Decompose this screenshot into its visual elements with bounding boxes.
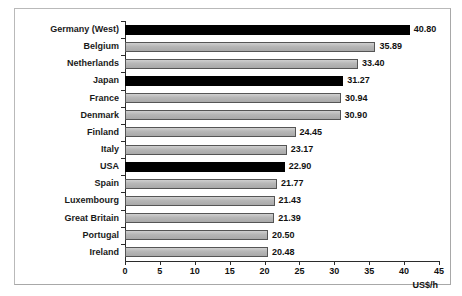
category-label: Italy [0,141,119,158]
x-axis-tick [404,261,405,265]
bar [125,145,287,155]
y-axis-tick [121,158,125,159]
category-label: Great Britain [0,210,119,227]
bar [125,59,358,69]
x-axis-tick-label: 5 [157,266,162,276]
category-label: Denmark [0,107,119,124]
bar [125,127,296,137]
x-axis-tick [369,261,370,265]
x-axis-tick-label: 10 [190,266,200,276]
x-axis-tick-label: 15 [225,266,235,276]
bar-row: Belgium35.89 [15,38,450,55]
bar-row: Great Britain21.39 [15,210,450,227]
bar [125,42,375,52]
x-axis-tick [265,261,266,265]
bar-value-label: 31.27 [343,72,370,89]
bar [125,230,268,240]
bar-value-label: 21.43 [275,192,302,209]
bar-row: Portugal20.50 [15,227,450,244]
category-label: France [0,90,119,107]
x-axis-tick [230,261,231,265]
bar [125,25,410,35]
x-axis-tick [334,261,335,265]
x-axis-tick-label: 25 [294,266,304,276]
y-axis-tick [121,107,125,108]
bar [125,213,274,223]
y-axis-tick [121,72,125,73]
x-axis-tick-label: 0 [122,266,127,276]
bar-row: Ireland20.48 [15,244,450,261]
bar-row: Italy23.17 [15,141,450,158]
category-label: Netherlands [0,55,119,72]
y-axis-tick [121,21,125,22]
bar [125,76,343,86]
x-axis-tick-label: 40 [399,266,409,276]
y-axis-tick [121,175,125,176]
bar-value-label: 30.94 [341,90,368,107]
x-axis-line [125,261,440,262]
bar-value-label: 21.39 [274,210,301,227]
y-axis-tick [121,210,125,211]
bar-value-label: 20.50 [268,227,295,244]
y-axis-tick [121,244,125,245]
bar-row: Luxembourg21.43 [15,192,450,209]
bar-row: Japan31.27 [15,72,450,89]
bar [125,93,341,103]
bar-value-label: 33.40 [358,55,385,72]
x-axis-tick-label: 30 [329,266,339,276]
y-axis-tick [121,55,125,56]
y-axis-tick [121,192,125,193]
x-axis-tick [195,261,196,265]
bar-row: USA22.90 [15,158,450,175]
bar-row: France30.94 [15,90,450,107]
category-label: Ireland [0,244,119,261]
category-label: Japan [0,72,119,89]
category-label: USA [0,158,119,175]
bar-value-label: 24.45 [296,124,323,141]
bar [125,247,268,257]
x-axis-tick-label: 20 [260,266,270,276]
chart-frame: Germany (West)40.80Belgium35.89Netherlan… [14,8,451,285]
bar-row: Finland24.45 [15,124,450,141]
bar-value-label: 21.77 [277,175,304,192]
category-label: Luxembourg [0,192,119,209]
y-axis-tick [121,124,125,125]
y-axis-tick [121,141,125,142]
bar-value-label: 35.89 [375,38,402,55]
y-axis-tick [121,90,125,91]
x-axis-tick [160,261,161,265]
category-label: Portugal [0,227,119,244]
y-axis-tick [121,38,125,39]
x-axis-title: US$/h [412,280,438,290]
category-label: Spain [0,175,119,192]
bar-value-label: 20.48 [268,244,295,261]
x-axis-tick-label: 45 [434,266,444,276]
bar-row: Denmark30.90 [15,107,450,124]
x-axis-tick-label: 35 [364,266,374,276]
category-label: Belgium [0,38,119,55]
bar [125,179,277,189]
bar [125,110,341,120]
bar [125,162,285,172]
bar [125,196,275,206]
bar-value-label: 23.17 [287,141,314,158]
bar-row: Germany (West)40.80 [15,21,450,38]
x-axis-tick [439,261,440,265]
y-axis-tick [121,227,125,228]
category-label: Finland [0,124,119,141]
bar-row: Netherlands33.40 [15,55,450,72]
bar-row: Spain21.77 [15,175,450,192]
x-axis-tick [125,261,126,265]
bar-value-label: 22.90 [285,158,312,175]
x-axis-tick [299,261,300,265]
bar-value-label: 40.80 [410,21,437,38]
category-label: Germany (West) [0,21,119,38]
bar-value-label: 30.90 [341,107,368,124]
